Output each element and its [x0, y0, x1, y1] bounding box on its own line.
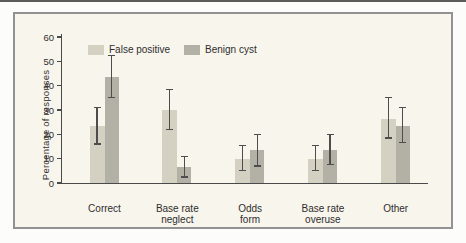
page-top-rule	[0, 0, 466, 2]
chart-panel: Percentage of responses False positive B…	[13, 12, 453, 229]
error-bar-cap-bottom-benign-cyst-base-rate-overuse	[327, 164, 334, 165]
y-tick-label-60: 60	[30, 32, 54, 43]
y-tick-label-10: 10	[30, 153, 54, 164]
x-category-label-odds-form: Odds form	[208, 203, 292, 225]
error-bar-line-false-positive-odds-form	[242, 145, 243, 171]
error-bar-cap-top-false-positive-base-rate-overuse	[312, 145, 319, 146]
y-tick-label-30: 30	[30, 105, 54, 116]
error-bar-cap-bottom-false-positive-odds-form	[239, 170, 246, 171]
legend-label-false-positive: False positive	[109, 44, 170, 56]
error-bar-line-benign-cyst-odds-form	[257, 134, 258, 166]
legend-swatch-benign-cyst	[184, 45, 200, 55]
error-bar-line-benign-cyst-other	[402, 108, 403, 143]
legend-swatch-false-positive	[88, 45, 104, 55]
legend-label-benign-cyst: Benign cyst	[205, 44, 257, 56]
error-bar-cap-top-false-positive-odds-form	[239, 145, 246, 146]
error-bar-cap-top-false-positive-correct	[94, 107, 101, 108]
error-bar-cap-bottom-false-positive-correct	[94, 143, 101, 144]
error-bar-cap-bottom-false-positive-base-rate-overuse	[312, 170, 319, 171]
y-tick-label-50: 50	[30, 56, 54, 67]
y-tick-mark-0	[57, 182, 62, 183]
y-tick-mark-30	[57, 109, 62, 110]
error-bar-line-benign-cyst-correct	[111, 55, 112, 98]
y-tick-label-0: 0	[30, 178, 54, 189]
y-tick-label-20: 20	[30, 129, 54, 140]
error-bar-cap-bottom-false-positive-base-rate-neglect	[166, 129, 173, 130]
error-bar-cap-bottom-benign-cyst-other	[399, 142, 406, 143]
x-category-label-other: Other	[354, 203, 438, 214]
y-tick-label-40: 40	[30, 80, 54, 91]
y-tick-mark-50	[57, 61, 62, 62]
error-bar-line-false-positive-base-rate-neglect	[169, 89, 170, 129]
error-bar-cap-top-false-positive-base-rate-neglect	[166, 89, 173, 90]
error-bar-line-false-positive-correct	[96, 108, 97, 145]
error-bar-cap-bottom-false-positive-other	[385, 137, 392, 138]
error-bar-cap-top-false-positive-other	[385, 97, 392, 98]
x-category-label-base-rate-neglect: Base rate neglect	[135, 203, 219, 225]
y-tick-mark-10	[57, 158, 62, 159]
error-bar-line-benign-cyst-base-rate-overuse	[329, 134, 330, 164]
error-bar-line-false-positive-base-rate-overuse	[315, 145, 316, 171]
error-bar-line-benign-cyst-base-rate-neglect	[184, 156, 185, 177]
y-tick-mark-60	[57, 36, 62, 37]
error-bar-cap-bottom-benign-cyst-correct	[108, 97, 115, 98]
x-category-label-base-rate-overuse: Base rate overuse	[281, 203, 365, 225]
error-bar-line-false-positive-other	[388, 98, 389, 138]
error-bar-cap-bottom-benign-cyst-odds-form	[254, 165, 261, 166]
error-bar-cap-top-benign-cyst-odds-form	[254, 134, 261, 135]
error-bar-cap-top-benign-cyst-correct	[108, 55, 115, 56]
x-category-label-correct: Correct	[63, 203, 147, 214]
error-bar-cap-bottom-benign-cyst-base-rate-neglect	[181, 176, 188, 177]
error-bar-cap-top-benign-cyst-base-rate-overuse	[327, 134, 334, 135]
error-bar-cap-top-benign-cyst-base-rate-neglect	[181, 156, 188, 157]
y-tick-mark-20	[57, 134, 62, 135]
y-tick-mark-40	[57, 85, 62, 86]
error-bar-cap-top-benign-cyst-other	[399, 107, 406, 108]
